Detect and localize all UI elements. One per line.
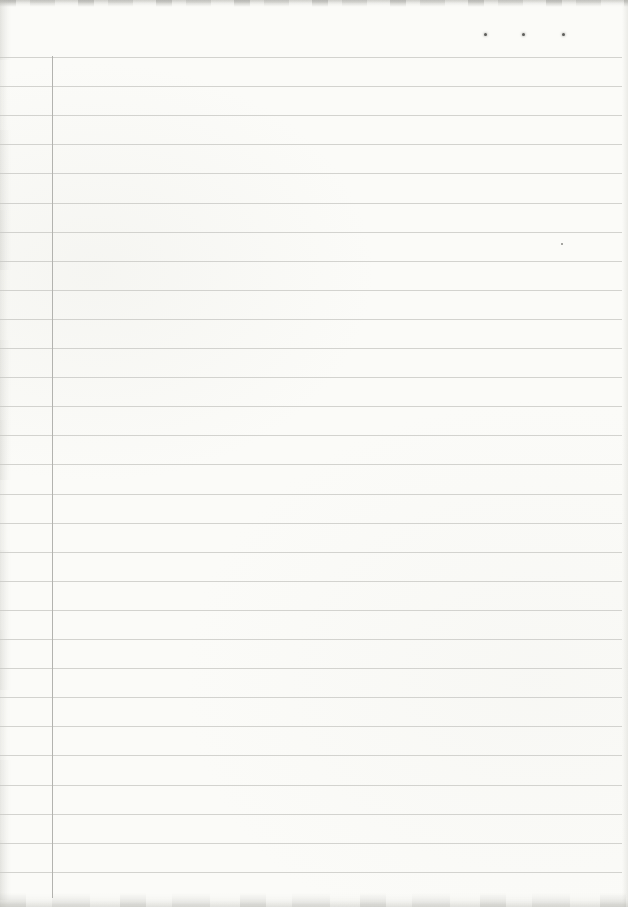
margin-line xyxy=(52,56,53,898)
registration-dot xyxy=(562,33,565,36)
notebook-page xyxy=(0,0,628,907)
registration-dot xyxy=(484,33,487,36)
registration-dot xyxy=(522,33,525,36)
paper-speck xyxy=(561,243,563,245)
writing-area xyxy=(60,57,618,867)
ruled-line xyxy=(0,872,622,873)
page-bottom-edge xyxy=(0,893,628,907)
